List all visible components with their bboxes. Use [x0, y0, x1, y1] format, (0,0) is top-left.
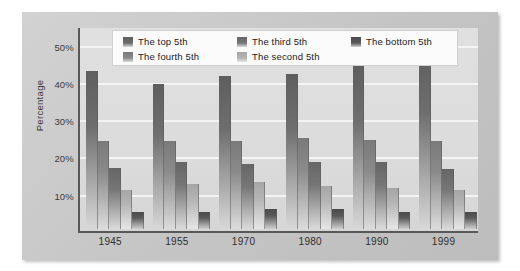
bar	[376, 162, 388, 229]
legend-swatch-icon	[123, 52, 133, 62]
legend-swatch-icon	[351, 37, 361, 47]
y-axis-tick-label: 30%	[54, 116, 74, 127]
legend-label: The top 5th	[138, 36, 188, 47]
bar	[242, 164, 254, 229]
legend-row: The top 5thThe third 5thThe bottom 5th	[119, 34, 451, 49]
bar	[98, 141, 110, 229]
legend-label: The second 5th	[252, 51, 320, 62]
y-axis-tick-label: 50%	[54, 41, 74, 52]
bar	[254, 182, 266, 229]
x-axis-tick-label: 1955	[165, 236, 188, 247]
legend-label: The third 5th	[252, 36, 307, 47]
x-axis-tick-label: 1980	[299, 236, 322, 247]
bar	[431, 141, 443, 229]
bar	[442, 169, 454, 229]
legend-row: The fourth 5thThe second 5th	[119, 49, 451, 64]
bar	[231, 141, 243, 229]
y-axis-tick-labels: 10%20%30%40%50%	[40, 28, 76, 233]
bar	[454, 190, 466, 229]
legend-entry[interactable]: The second 5th	[237, 49, 320, 64]
legend-label: The bottom 5th	[366, 36, 432, 47]
legend-entry[interactable]: The bottom 5th	[351, 34, 432, 49]
bar	[265, 209, 277, 230]
x-axis-tick-label: 1945	[99, 236, 122, 247]
bar	[176, 162, 188, 229]
legend-label: The fourth 5th	[138, 51, 199, 62]
bar	[399, 212, 411, 229]
y-axis-tick-label: 20%	[54, 153, 74, 164]
x-axis-tick-label: 1990	[365, 236, 388, 247]
bar	[309, 162, 321, 229]
y-axis-tick-label: 40%	[54, 78, 74, 89]
bar	[332, 209, 344, 230]
x-axis-tick-label: 1999	[432, 236, 455, 247]
bar	[121, 190, 133, 229]
bar	[419, 50, 431, 229]
bar	[153, 84, 165, 229]
bar	[86, 71, 98, 229]
bar	[387, 188, 399, 229]
bar	[187, 184, 199, 229]
bar	[465, 212, 477, 229]
y-axis-tick-label: 10%	[54, 190, 74, 201]
bar	[164, 141, 176, 229]
legend-entry[interactable]: The top 5th	[123, 34, 188, 49]
bar	[321, 186, 333, 229]
legend-swatch-icon	[123, 37, 133, 47]
bar	[109, 168, 121, 230]
legend-swatch-icon	[237, 37, 247, 47]
bar	[364, 140, 376, 229]
x-axis-tick-labels: 194519551970198019901999	[78, 236, 478, 254]
bar	[132, 212, 144, 229]
x-axis-tick-label: 1970	[232, 236, 255, 247]
bar	[286, 74, 298, 229]
legend-entry[interactable]: The fourth 5th	[123, 49, 199, 64]
bar	[353, 63, 365, 229]
legend-entry[interactable]: The third 5th	[237, 34, 307, 49]
chart-legend: The top 5thThe third 5thThe bottom 5th T…	[112, 30, 458, 66]
bar	[298, 138, 310, 229]
bar	[199, 212, 211, 229]
bar	[219, 76, 231, 229]
legend-swatch-icon	[237, 52, 247, 62]
chart-figure: Percentage 10%20%30%40%50% 1945195519701…	[0, 0, 520, 271]
